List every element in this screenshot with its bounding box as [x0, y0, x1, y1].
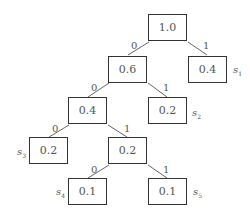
symbol-s2: s2: [192, 108, 201, 122]
node-root: 1.0: [148, 14, 187, 41]
node-value: 1.0: [159, 21, 177, 34]
edge-label: 0: [52, 124, 58, 134]
edge-label: 1: [163, 165, 169, 175]
edge-label: 1: [203, 41, 209, 51]
edge-label: 0: [91, 83, 97, 93]
node-s4: 0.1: [68, 178, 107, 205]
node-0-6: 0.6: [108, 56, 147, 83]
node-value: 0.2: [119, 144, 137, 157]
symbol-s4: s4: [56, 187, 65, 201]
node-value: 0.6: [119, 63, 137, 76]
symbol-s3: s3: [17, 147, 26, 161]
node-s5: 0.1: [148, 178, 187, 205]
edge-label: 0: [131, 41, 137, 51]
node-value: 0.1: [79, 185, 97, 198]
node-value: 0.4: [79, 104, 97, 117]
node-value: 0.1: [159, 185, 177, 198]
node-value: 0.4: [199, 63, 217, 76]
symbol-s5: s5: [193, 187, 202, 201]
tree-edges: [0, 0, 250, 223]
node-value: 0.2: [159, 104, 177, 117]
node-0-2: 0.2: [108, 137, 147, 164]
node-s1: 0.4: [188, 56, 227, 83]
node-s3: 0.2: [29, 137, 68, 164]
node-value: 0.2: [40, 144, 58, 157]
symbol-s1: s1: [233, 65, 242, 79]
node-0-4: 0.4: [68, 97, 107, 124]
edge-label: 0: [91, 165, 97, 175]
edge-label: 1: [163, 83, 169, 93]
node-s2: 0.2: [148, 97, 187, 124]
edge-label: 1: [124, 124, 130, 134]
